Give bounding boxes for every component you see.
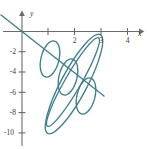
x-tick-label-3: 3 — [94, 37, 108, 45]
curve-group — [1, 15, 112, 140]
x-axis-label: x — [138, 30, 141, 38]
y-axis-arrowhead — [19, 11, 25, 17]
y-axis-label: y — [30, 10, 33, 18]
x-tick-label-2: 2 — [68, 37, 82, 45]
y-tick-label-minus6: -6 — [0, 89, 16, 97]
plot-canvas — [0, 0, 147, 149]
secondary-envelope-ellipse — [41, 34, 106, 130]
y-tick-label-minus4: -4 — [0, 68, 16, 76]
parametric-curve-figure: y x 2 3 4 -2 -4 -6 -8 -10 — [0, 0, 147, 149]
y-tick-label-minus8: -8 — [0, 109, 16, 117]
x-tick-label-4: 4 — [121, 37, 135, 45]
y-tick-label-minus10: -10 — [0, 129, 14, 137]
y-tick-label-minus2: -2 — [0, 48, 16, 56]
